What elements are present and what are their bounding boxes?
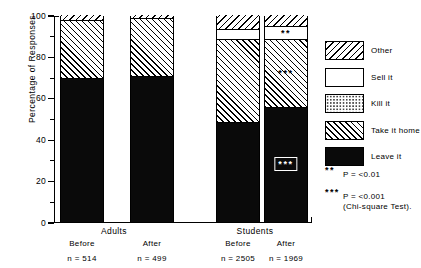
- three-star-marks: ***: [325, 187, 340, 197]
- significance-marker: ***: [274, 157, 297, 171]
- plot-area: ********: [54, 16, 312, 223]
- segment-leave-it: [217, 123, 259, 222]
- bar-adults-after[interactable]: [130, 16, 174, 223]
- segment-leave-it: [131, 77, 173, 222]
- chart-figure: Percentage of Responses 020406080100 ***…: [0, 0, 421, 268]
- segment-sell-it: [217, 30, 259, 40]
- segment-take-it-home: [61, 21, 103, 79]
- bar-sublabel-0: Before: [47, 239, 117, 248]
- segment-other: [131, 15, 173, 19]
- bar-sublabel-1: After: [117, 239, 187, 248]
- segment-take-it-home: ***: [265, 40, 307, 108]
- chi-square-note: (Chi-square Test).: [343, 202, 412, 211]
- bar-students-before[interactable]: [216, 16, 260, 223]
- legend-swatch-leave-it: [325, 147, 364, 166]
- group-label-adults: Adults: [59, 226, 169, 236]
- segment-other: [61, 15, 103, 21]
- two-star-text: P = <0.01: [343, 170, 380, 179]
- group-label-students: Students: [200, 226, 310, 236]
- segment-leave-it: ***: [265, 108, 307, 222]
- segment-sell-it: **: [265, 27, 307, 39]
- two-star-marks: **: [325, 165, 335, 175]
- legend-label: Other: [371, 46, 393, 55]
- bar-sample-size-0: n = 514: [47, 254, 117, 263]
- y-tick-label-20: 20: [24, 176, 46, 186]
- segment-take-it-home: [217, 40, 259, 123]
- legend-swatch-other: [325, 41, 364, 60]
- y-axis-title: Percentage of Responses: [27, 0, 37, 149]
- bar-sublabel-3: After: [251, 239, 321, 248]
- bar-adults-before[interactable]: [60, 16, 104, 223]
- bar-sample-size-3: n = 1969: [251, 254, 321, 263]
- y-tick-label-100: 100: [24, 11, 46, 21]
- y-tick-label-40: 40: [24, 135, 46, 145]
- bar-students-after[interactable]: ********: [264, 16, 308, 223]
- segment-take-it-home: [131, 19, 173, 77]
- legend-label: Take it home: [371, 126, 420, 135]
- segment-leave-it: [61, 79, 103, 222]
- segment-other: [217, 15, 259, 29]
- significance-marker: **: [281, 29, 291, 38]
- legend-label: Kill it: [371, 99, 390, 108]
- y-tick-label-0: 0: [24, 218, 46, 228]
- bar-sample-size-1: n = 499: [117, 254, 187, 263]
- legend-label: Sell it: [371, 73, 393, 82]
- y-tick-label-80: 80: [24, 52, 46, 62]
- segment-other: [265, 15, 307, 27]
- legend-label: Leave it: [371, 152, 401, 161]
- legend-swatch-sell-it: [325, 68, 364, 87]
- y-tick-label-60: 60: [24, 93, 46, 103]
- three-star-text: P = <0.001: [343, 192, 385, 201]
- legend-swatch-kill-it: [325, 94, 364, 113]
- significance-marker: ***: [278, 69, 293, 78]
- legend-swatch-take-it-home: [325, 121, 364, 140]
